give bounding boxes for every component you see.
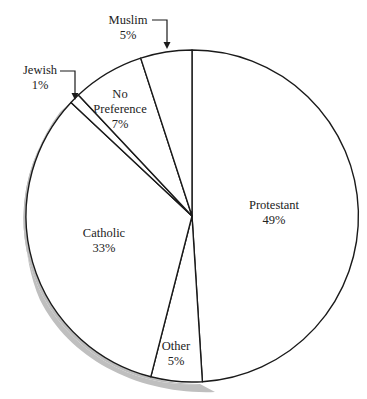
muslim-leader-line — [152, 20, 167, 44]
label-no-preference-line1: No — [112, 87, 127, 101]
muslim-arrowhead-icon — [164, 42, 171, 49]
label-other-name: Other — [162, 339, 191, 353]
label-other-pct: 5% — [168, 354, 185, 368]
label-catholic-name: Catholic — [83, 226, 126, 240]
label-muslim-name: Muslim — [109, 13, 148, 27]
label-muslim-pct: 5% — [120, 28, 137, 42]
label-catholic-pct: 33% — [93, 241, 116, 255]
label-no-preference-line2: Preference — [93, 102, 147, 116]
label-protestant-pct: 49% — [263, 213, 286, 227]
label-jewish-name: Jewish — [23, 63, 58, 77]
pie-slices — [26, 50, 358, 382]
jewish-leader-line — [60, 71, 75, 95]
label-no-preference-pct: 7% — [112, 117, 129, 131]
label-jewish-pct: 1% — [32, 78, 49, 92]
label-protestant-name: Protestant — [249, 198, 300, 212]
pie-chart: Protestant 49% Catholic 33% Other 5% No … — [0, 0, 367, 399]
